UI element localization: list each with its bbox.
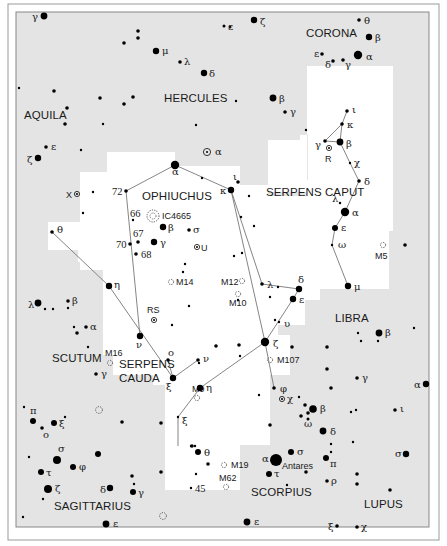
star-label: γ <box>315 139 321 150</box>
star-icon <box>128 242 132 246</box>
star-label: σ <box>193 224 200 235</box>
star-icon <box>337 139 344 146</box>
star-icon <box>124 189 128 193</box>
star-label: ι <box>400 403 404 414</box>
star-label: λ <box>267 279 274 290</box>
star-icon <box>151 239 157 245</box>
star-icon <box>42 498 44 500</box>
star-label: φ <box>280 383 287 394</box>
star-label: κ <box>220 185 227 196</box>
star-icon <box>320 428 327 435</box>
star-icon <box>339 202 341 204</box>
star-icon <box>84 325 88 329</box>
cluster-label: M5 <box>375 251 388 261</box>
star-icon <box>198 362 200 364</box>
star-icon <box>28 456 30 458</box>
star-icon <box>41 13 48 20</box>
star-icon <box>195 473 197 475</box>
star-label: α <box>90 321 97 332</box>
star-icon <box>241 252 243 254</box>
star-icon <box>323 455 329 461</box>
star-icon <box>366 34 372 40</box>
star-icon <box>63 122 67 126</box>
star-icon <box>223 25 226 28</box>
star-icon <box>331 244 333 246</box>
star-label: α <box>414 379 421 390</box>
star-icon <box>206 462 210 466</box>
star-icon <box>423 381 429 387</box>
star-icon <box>355 525 359 529</box>
star-label: ε <box>113 518 118 529</box>
star-label: χ <box>354 157 360 168</box>
star-icon <box>330 443 332 445</box>
star-icon <box>290 296 296 302</box>
star-label: ε <box>51 141 56 152</box>
star-label: δ <box>325 59 331 70</box>
constellation-label: CAUDA <box>119 372 160 384</box>
star-icon <box>320 52 324 56</box>
star-icon <box>270 454 282 466</box>
star-icon <box>354 51 362 59</box>
star-icon <box>187 228 191 232</box>
star-icon <box>355 472 359 476</box>
star-icon <box>272 386 276 390</box>
star-icon <box>352 441 354 443</box>
star-icon <box>239 355 241 357</box>
star-icon <box>270 95 277 102</box>
star-icon <box>130 474 134 478</box>
star-icon <box>195 449 201 455</box>
star-label: α <box>366 51 373 62</box>
star-icon <box>53 456 61 464</box>
star-label: ε <box>254 516 259 527</box>
star-icon <box>87 346 89 348</box>
star-label: ω <box>338 239 346 250</box>
star-icon <box>323 139 327 143</box>
star-icon <box>377 340 379 342</box>
constellation-label: SERPENS <box>119 358 175 370</box>
star-icon <box>195 124 197 126</box>
star-icon <box>261 338 269 346</box>
star-label: β <box>385 327 391 338</box>
star-icon <box>82 212 84 214</box>
star-icon <box>188 305 190 307</box>
star-label: ι <box>233 171 237 182</box>
star-label: ε <box>299 294 304 305</box>
star-icon <box>122 102 126 106</box>
star-icon <box>190 487 192 489</box>
star-label: ξ <box>166 381 172 392</box>
star-icon <box>94 372 98 376</box>
constellation-label: HERCULES <box>164 92 228 104</box>
star-label: ξ <box>59 418 65 429</box>
star-icon <box>75 331 79 335</box>
star-icon <box>134 252 138 256</box>
star-icon <box>153 48 159 54</box>
star-icon <box>51 420 57 426</box>
star-label: ζ <box>260 16 266 27</box>
star-icon <box>18 87 20 89</box>
star-icon <box>136 240 140 244</box>
star-icon <box>357 332 359 334</box>
star-icon <box>64 416 66 418</box>
star-icon <box>95 451 101 457</box>
star-label: λ <box>28 299 35 310</box>
star-label: δ <box>100 484 106 495</box>
star-icon <box>268 423 272 427</box>
star-icon <box>341 208 349 216</box>
star-icon <box>130 489 136 495</box>
star-icon <box>296 286 302 292</box>
star-icon <box>266 471 272 477</box>
star-label: α <box>262 453 269 464</box>
star-icon <box>253 225 255 227</box>
star-icon <box>133 483 135 485</box>
star-icon <box>251 17 257 23</box>
star-icon <box>329 386 333 390</box>
star-label: θ <box>204 447 210 458</box>
star-icon <box>235 100 237 102</box>
named-star-label: Antares <box>282 461 314 471</box>
star-icon <box>290 345 294 349</box>
constellation-label: OPHIUCHUS <box>142 190 212 202</box>
star-icon <box>269 296 271 298</box>
star-label: χ <box>361 521 367 532</box>
star-icon <box>345 109 349 113</box>
named-stars: Antares <box>282 461 314 471</box>
